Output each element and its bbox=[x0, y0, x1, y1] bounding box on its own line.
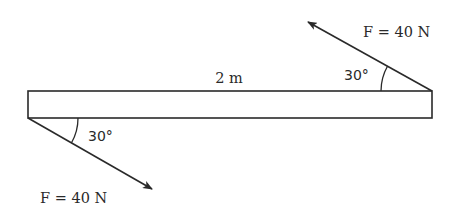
beam-length-label: 2 m bbox=[215, 70, 243, 86]
force-label-bottom-left: F = 40 N bbox=[40, 190, 107, 206]
force-diagram: 2 m 30° F = 40 N 30° F = 40 N bbox=[0, 0, 460, 216]
angle-arc-top-right bbox=[381, 66, 388, 91]
angle-arc-bottom-left bbox=[71, 118, 78, 143]
beam bbox=[28, 91, 432, 118]
force-label-top-right: F = 40 N bbox=[363, 24, 430, 40]
angle-label-bottom-left: 30° bbox=[88, 128, 113, 144]
angle-label-top-right: 30° bbox=[344, 67, 369, 83]
